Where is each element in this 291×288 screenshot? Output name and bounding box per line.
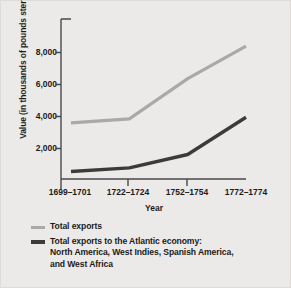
legend-swatch-icon-atlantic-economy xyxy=(31,240,45,244)
x-tick-label-1699-1701: 1699–1701 xyxy=(39,187,101,197)
series-line-total-exports xyxy=(71,46,246,123)
legend-label-total-exports: Total exports xyxy=(50,221,102,232)
legend-item-total-exports: Total exports xyxy=(31,221,281,232)
x-tick-marks xyxy=(128,179,187,186)
plot-area xyxy=(1,1,291,201)
chart-figure: Value (in thousands of pounds sterling) … xyxy=(0,0,291,288)
series-line-atlantic-economy xyxy=(71,117,246,171)
legend-label-atlantic-line1: Total exports to the Atlantic economy: xyxy=(50,236,202,246)
legend-label-atlantic-line3: and West Africa xyxy=(50,259,113,269)
y-tick-marks xyxy=(55,53,61,149)
legend-label-atlantic-line2: North America, West Indies, Spanish Amer… xyxy=(50,247,233,257)
x-axis-title: Year xyxy=(61,203,247,213)
x-tick-label-1722-1724: 1722–1724 xyxy=(97,187,159,197)
legend-label-atlantic-economy: Total exports to the Atlantic economy: N… xyxy=(50,236,233,270)
legend-item-atlantic-economy: Total exports to the Atlantic economy: N… xyxy=(31,236,281,270)
legend-swatch-icon-total-exports xyxy=(31,226,45,229)
x-tick-label-1752-1754: 1752–1754 xyxy=(156,187,218,197)
chart-legend: Total exports Total exports to the Atlan… xyxy=(31,221,281,274)
x-tick-label-1772-1774: 1772–1774 xyxy=(215,187,277,197)
